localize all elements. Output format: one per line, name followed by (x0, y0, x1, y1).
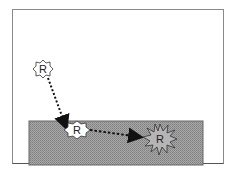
radical-node-2: R (64, 121, 90, 139)
node-label: R (73, 124, 81, 136)
diagram-canvas: R R R (0, 0, 234, 176)
node-label: R (39, 63, 47, 75)
node-label: R (156, 133, 164, 145)
arrow-r1-to-r2 (48, 78, 66, 127)
surface-region (29, 121, 203, 165)
radical-node-1: R (33, 60, 53, 78)
